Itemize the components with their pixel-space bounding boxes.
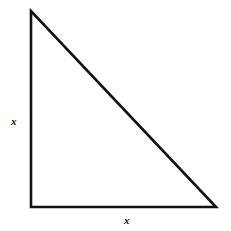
vertical-side-label: x [11, 116, 17, 127]
horizontal-side-label: x [124, 215, 130, 226]
triangle-diagram: x x [0, 0, 231, 231]
right-triangle-shape [31, 11, 216, 207]
triangle-svg-canvas [0, 0, 231, 231]
